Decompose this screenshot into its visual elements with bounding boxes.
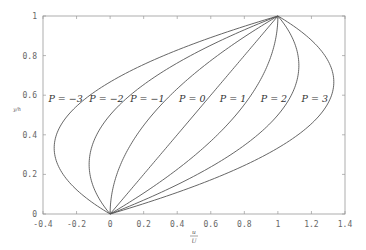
y-tick-label: 0.2 — [23, 170, 38, 179]
curve-p0 — [110, 16, 278, 214]
curve-label: P = 3 — [301, 93, 328, 104]
curve-p3 — [110, 16, 334, 214]
curve-labels: P = −3P = −2P = −1P = 0P = 1P = 2P = 3 — [47, 93, 328, 104]
svg-text:y/h: y/h — [12, 106, 21, 113]
curve-label: P = 0 — [178, 93, 205, 104]
x-tick-label: 1 — [275, 220, 280, 229]
x-axis-label: u U — [190, 228, 198, 244]
y-tick-label: 1 — [32, 12, 37, 21]
curve-label: P = 1 — [219, 93, 246, 104]
x-tick-label: 1.2 — [304, 220, 319, 229]
x-tick-label: 0.6 — [204, 220, 219, 229]
curve-label: P = 2 — [260, 93, 287, 104]
y-tick-label: 0.6 — [23, 91, 38, 100]
x-tick-label: 0.8 — [237, 220, 252, 229]
y-tick-label: 0.8 — [23, 52, 38, 61]
axes: -0.4-0.200.20.40.60.811.21.400.20.40.60.… — [23, 12, 353, 229]
x-tick-label: -0.2 — [67, 220, 86, 229]
svg-text:u: u — [192, 228, 196, 235]
curve-label: P = −2 — [88, 93, 123, 104]
y-axis-label: y/h — [12, 106, 21, 113]
curve-p-2 — [89, 16, 278, 214]
curve-label: P = −3 — [47, 93, 82, 104]
curve-label: P = −1 — [129, 93, 164, 104]
x-tick-label: 0.4 — [170, 220, 185, 229]
curve-p-3 — [54, 16, 278, 214]
y-tick-label: 0 — [32, 210, 37, 219]
curves — [54, 16, 334, 214]
x-tick-label: 0 — [108, 220, 113, 229]
y-tick-label: 0.4 — [23, 131, 38, 140]
x-tick-label: 0.2 — [136, 220, 151, 229]
x-tick-label: -0.4 — [33, 220, 52, 229]
svg-text:U: U — [191, 237, 197, 244]
x-tick-label: 1.4 — [338, 220, 353, 229]
chart: -0.4-0.200.20.40.60.811.21.400.20.40.60.… — [0, 0, 366, 250]
curve-p2 — [110, 16, 299, 214]
